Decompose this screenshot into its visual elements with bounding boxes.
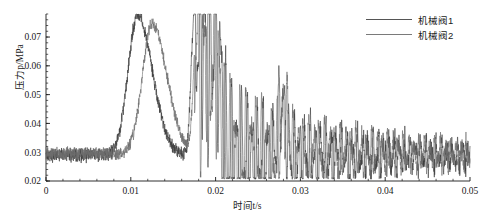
svg-text:0.03: 0.03 bbox=[292, 186, 309, 196]
legend-item-series-2: 机械阀2 bbox=[366, 27, 490, 42]
svg-text:0.05: 0.05 bbox=[462, 186, 479, 196]
pressure-time-chart: 00.010.020.030.040.050.020.030.040.050.0… bbox=[0, 0, 494, 218]
legend-line-icon-series-1 bbox=[366, 19, 412, 20]
legend-line-icon-series-2 bbox=[366, 34, 412, 35]
svg-text:0.06: 0.06 bbox=[24, 61, 41, 71]
x-axis-label: 时间t/s bbox=[0, 198, 494, 212]
svg-text:0: 0 bbox=[44, 186, 49, 196]
svg-text:0.02: 0.02 bbox=[207, 186, 224, 196]
y-axis-label: 压力p/MPa bbox=[12, 12, 26, 122]
svg-text:0.05: 0.05 bbox=[24, 90, 41, 100]
svg-text:0.07: 0.07 bbox=[24, 32, 41, 42]
svg-text:0.04: 0.04 bbox=[377, 186, 394, 196]
legend-label-series-1: 机械阀1 bbox=[418, 13, 453, 27]
svg-text:0.03: 0.03 bbox=[24, 148, 41, 158]
chart-legend: 机械阀1 机械阀2 bbox=[366, 12, 490, 42]
svg-text:0.01: 0.01 bbox=[122, 186, 139, 196]
svg-text:0.04: 0.04 bbox=[24, 119, 41, 129]
legend-label-series-2: 机械阀2 bbox=[418, 28, 453, 42]
legend-item-series-1: 机械阀1 bbox=[366, 12, 490, 27]
svg-text:0.02: 0.02 bbox=[24, 176, 41, 186]
